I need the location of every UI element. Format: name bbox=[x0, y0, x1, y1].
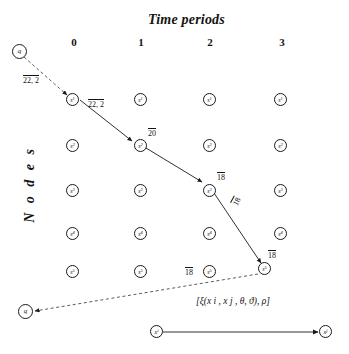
node-s4-t2: s4 bbox=[203, 227, 216, 240]
node-sub: j bbox=[326, 329, 327, 334]
legend-node-from: xi bbox=[150, 325, 163, 338]
node-sub: 4 bbox=[281, 231, 283, 236]
node-sub: 4 bbox=[73, 231, 75, 236]
node-s1-t2: s1 bbox=[203, 93, 216, 106]
nodes-axis-title: N o d e s bbox=[22, 146, 38, 223]
node-sub: 5 bbox=[210, 269, 212, 274]
node-sub: 5 bbox=[141, 269, 143, 274]
node-sub: 5 bbox=[265, 266, 267, 271]
node-sub: 2 bbox=[281, 143, 283, 148]
node-s1-t0: s1 bbox=[66, 93, 79, 106]
edge-label-origin-to-s1: 22, 2 bbox=[23, 76, 39, 85]
node-sub: 3 bbox=[141, 188, 143, 193]
figure-canvas: Time periods N o d e s 0 1 2 3 q q s1 s2… bbox=[0, 0, 349, 354]
legend-formula: [ξ(x i , x j , θ, ϑ), ρ] bbox=[196, 296, 270, 306]
node-s5-t3: s5 bbox=[258, 262, 271, 275]
node-sub: 3 bbox=[73, 188, 75, 193]
node-s3-t3: s3 bbox=[274, 184, 287, 197]
destination-node: q bbox=[18, 304, 33, 319]
node-sub: 2 bbox=[210, 143, 212, 148]
edge-label-s3: 18 bbox=[217, 173, 225, 182]
column-header-period-3: 3 bbox=[270, 36, 294, 48]
node-s5-t1: s5 bbox=[134, 265, 147, 278]
time-periods-title: Time periods bbox=[148, 12, 225, 28]
column-header-period-1: 1 bbox=[129, 36, 153, 48]
node-s5-t0: s5 bbox=[66, 265, 79, 278]
node-s2-t2: s2 bbox=[203, 139, 216, 152]
node-sub: 1 bbox=[210, 97, 212, 102]
node-s4-t1: s4 bbox=[134, 227, 147, 240]
node-s2-t3: s2 bbox=[274, 139, 287, 152]
edge-s2-to-s3 bbox=[146, 148, 202, 182]
node-sub: 1 bbox=[73, 97, 75, 102]
origin-node-label: q bbox=[18, 48, 22, 55]
node-sub: i bbox=[157, 329, 158, 334]
destination-node-label: q bbox=[24, 308, 28, 315]
node-sub: 2 bbox=[141, 143, 143, 148]
node-s3-t0: s3 bbox=[66, 184, 79, 197]
node-sub: 2 bbox=[73, 143, 75, 148]
edge-label-s2: 20 bbox=[148, 129, 156, 138]
edge-label-destination-corner: 18 bbox=[268, 251, 276, 260]
origin-node: q bbox=[12, 44, 27, 59]
column-header-period-2: 2 bbox=[198, 36, 222, 48]
node-sub: 3 bbox=[210, 188, 212, 193]
node-s4-t3: s4 bbox=[274, 227, 287, 240]
node-sub: 3 bbox=[281, 188, 283, 193]
edge-label-s1-to-s2: 22, 2 bbox=[88, 100, 104, 109]
node-sub: 5 bbox=[73, 269, 75, 274]
node-s2-t1: s2 bbox=[134, 139, 147, 152]
edges-layer bbox=[0, 0, 349, 354]
node-s3-t1: s3 bbox=[134, 184, 147, 197]
node-sub: 1 bbox=[281, 97, 283, 102]
legend-node-to: xj bbox=[319, 325, 332, 338]
node-s4-t0: s4 bbox=[66, 227, 79, 240]
node-s2-t0: s2 bbox=[66, 139, 79, 152]
node-sub: 4 bbox=[210, 231, 212, 236]
node-s1-t3: s1 bbox=[274, 93, 287, 106]
node-s3-t2: s3 bbox=[203, 184, 216, 197]
column-header-period-0: 0 bbox=[62, 36, 86, 48]
node-s5-t2: s5 bbox=[203, 265, 216, 278]
edge-label-bottom-horizontal: 18 bbox=[185, 268, 193, 277]
node-sub: 4 bbox=[141, 231, 143, 236]
node-sub: 1 bbox=[141, 97, 143, 102]
node-s1-t1: s1 bbox=[134, 93, 147, 106]
